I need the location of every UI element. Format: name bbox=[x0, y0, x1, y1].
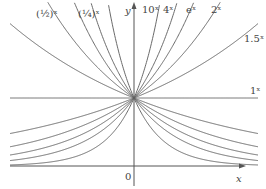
curve--1-2-x bbox=[48, 2, 258, 146]
label-2-power-x: 2ˣ bbox=[211, 4, 222, 15]
curve-4-x bbox=[10, 3, 177, 160]
label-10-power-x: 10ˣ bbox=[142, 4, 159, 15]
curve--1-4-x bbox=[91, 3, 258, 160]
label-1.5-power-x: 1.5ˣ bbox=[244, 33, 264, 44]
x-axis-label: x bbox=[236, 173, 242, 184]
y-axis-arrow-icon bbox=[132, 2, 137, 9]
origin-label: 0 bbox=[125, 171, 131, 182]
curve--1-e-x-reflection bbox=[74, 3, 258, 155]
curve-e-x bbox=[10, 3, 194, 155]
label-half-power-x: (½)ˣ bbox=[36, 8, 58, 19]
exponential-functions-chart: y x 0 (½)ˣ (¼)ˣ 10ˣ 4ˣ eˣ 2ˣ 1.5ˣ 1ˣ bbox=[0, 0, 266, 189]
y-axis-label: y bbox=[124, 5, 131, 16]
curve-2-x bbox=[10, 2, 220, 146]
label-1-power-x: 1ˣ bbox=[250, 85, 261, 96]
label-e-power-x: eˣ bbox=[186, 4, 196, 15]
label-4-power-x: 4ˣ bbox=[163, 4, 174, 15]
label-quarter-power-x: (¼)ˣ bbox=[78, 8, 100, 19]
